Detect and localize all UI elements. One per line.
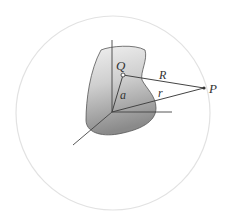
point-P-marker [202, 86, 205, 89]
label-Q: Q [116, 58, 126, 73]
point-Q-marker [121, 73, 125, 77]
label-P: P [208, 81, 217, 96]
diagram-canvas: Q R P a r [0, 0, 232, 224]
label-a: a [120, 88, 126, 102]
diagram-figure: Q R P a r [0, 0, 232, 224]
label-r: r [158, 86, 163, 100]
label-R: R [158, 68, 167, 82]
